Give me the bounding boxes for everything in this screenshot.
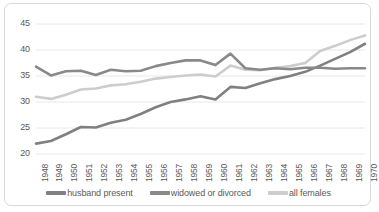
legend-label: all females — [289, 188, 331, 198]
x-axis-tick-1953: 1953 — [114, 164, 124, 182]
y-axis-tick-35: 35 — [10, 70, 30, 80]
x-axis-tick-1959: 1959 — [204, 164, 214, 182]
x-axis-tick-1956: 1956 — [159, 164, 169, 182]
series-line-widowed-or-divorced — [36, 54, 365, 76]
legend-label: husband present — [67, 188, 133, 198]
legend-item-husband-present[interactable]: husband present — [46, 188, 133, 198]
y-axis-tick-25: 25 — [10, 122, 30, 132]
legend-swatch-icon — [150, 191, 170, 195]
legend-label: widowed or divorced — [171, 188, 251, 198]
x-axis-tick-1966: 1966 — [309, 164, 319, 182]
y-axis-tick-30: 30 — [10, 96, 30, 106]
x-axis-tick-1961: 1961 — [234, 164, 244, 182]
x-axis-tick-1964: 1964 — [279, 164, 289, 182]
x-axis-tick-1957: 1957 — [174, 164, 184, 182]
y-axis-tick-20: 20 — [10, 148, 30, 158]
plot-area: 454035302520 194819491950195119521953195… — [5, 4, 372, 207]
x-axis-tick-1960: 1960 — [219, 164, 229, 182]
x-axis-tick-1970: 1970 — [369, 164, 379, 182]
x-axis-tick-1949: 1949 — [54, 164, 64, 182]
x-axis-tick-1951: 1951 — [84, 164, 94, 182]
y-axis-tick-45: 45 — [10, 18, 30, 28]
legend-item-widowed-or-divorced[interactable]: widowed or divorced — [150, 188, 251, 198]
series-line-husband-present — [36, 44, 365, 144]
x-axis-tick-1968: 1968 — [339, 164, 349, 182]
chart-legend: husband presentwidowed or divorcedall fe… — [5, 185, 372, 201]
x-axis-tick-1955: 1955 — [144, 164, 154, 182]
x-axis-tick-1952: 1952 — [99, 164, 109, 182]
x-axis-tick-1954: 1954 — [129, 164, 139, 182]
x-axis-tick-1967: 1967 — [324, 164, 334, 182]
x-axis-tick-1948: 1948 — [40, 164, 50, 182]
chart-container: 454035302520 194819491950195119521953195… — [4, 3, 371, 206]
x-axis-tick-1962: 1962 — [249, 164, 259, 182]
legend-swatch-icon — [268, 191, 288, 195]
x-axis-tick-1963: 1963 — [264, 164, 274, 182]
x-axis-tick-1958: 1958 — [189, 164, 199, 182]
x-axis-tick-1965: 1965 — [294, 164, 304, 182]
y-axis-tick-40: 40 — [10, 44, 30, 54]
legend-item-all-females[interactable]: all females — [268, 188, 331, 198]
legend-swatch-icon — [46, 191, 66, 195]
x-axis-tick-1950: 1950 — [69, 164, 79, 182]
x-axis-tick-1969: 1969 — [354, 164, 364, 182]
